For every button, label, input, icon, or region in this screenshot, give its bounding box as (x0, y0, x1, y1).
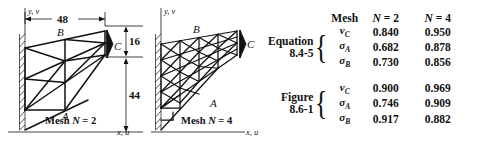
group-brace-figure: { (313, 81, 329, 127)
row-value-n4: 0.882 (412, 111, 464, 126)
row-symbol: vC (330, 24, 360, 39)
row-value-n2: 0.840 (360, 24, 412, 39)
mesh-caption-n2: Mesh N = 2 (45, 115, 96, 126)
group-label-equation: Equation 8.4-5 (268, 24, 313, 70)
row-symbol-sub: A (345, 102, 350, 111)
node-label-b-n2: B (57, 26, 64, 38)
table-header-row: Mesh N = 2 N = 4 (268, 12, 464, 24)
row-symbol: σB (330, 54, 360, 69)
mesh-caption-value-n2: 2 (91, 115, 96, 126)
header-spacer (268, 12, 313, 24)
mesh-caption-eq-n2: = (80, 115, 91, 126)
header-n2-var: N (373, 12, 381, 24)
brace-glyph: { (315, 30, 327, 64)
header-n2-eq: = (381, 12, 393, 24)
row-value-n2: 0.730 (360, 54, 412, 69)
x-axis-label-n4: x, u (245, 127, 258, 137)
wall-support-n2 (20, 34, 26, 130)
row-symbol: σB (330, 111, 360, 126)
node-label-b-n4: B (193, 23, 200, 35)
y-axis-label-n4: y, v (163, 6, 176, 16)
row-value-n4: 0.856 (412, 54, 464, 69)
group-label-figure-line2: 8.6-1 (268, 103, 313, 115)
row-symbol: σA (330, 39, 360, 54)
header-n4-eq: = (433, 12, 445, 24)
row-value-n4: 0.969 (412, 81, 464, 96)
row-value-n2: 0.746 (360, 96, 412, 111)
row-symbol: vC (330, 81, 360, 96)
figure-page: y, v x, u 48 (0, 0, 497, 150)
wall-support-n4 (156, 34, 162, 130)
header-n2: N = 2 (360, 12, 412, 24)
mesh-caption-n4: Mesh N = 4 (181, 115, 233, 126)
brace-glyph: { (315, 86, 327, 120)
row-value-n4: 0.878 (412, 39, 464, 54)
mesh-diagram-n2: y, v x, u 48 (0, 0, 145, 150)
mesh-diagram-n4: y, v x, u (145, 0, 265, 150)
row-symbol-sub: B (345, 117, 350, 126)
table-row: Equation 8.4-5 { vC 0.840 0.950 (268, 24, 464, 39)
dimension-span-value-n2: 48 (57, 13, 69, 25)
header-n4: N = 4 (412, 12, 464, 24)
tip-load-arrow-n4 (240, 30, 246, 58)
row-symbol: σA (330, 96, 360, 111)
header-n2-value: 2 (393, 12, 399, 24)
row-symbol-sub: C (345, 30, 350, 39)
header-n4-var: N (425, 12, 433, 24)
row-value-n2: 0.900 (360, 81, 412, 96)
node-label-a-n4: A (209, 97, 217, 109)
table-group-spacer (268, 70, 464, 81)
row-value-n2: 0.682 (360, 39, 412, 54)
group-label-figure: Figure 8.6-1 (268, 81, 313, 127)
group-label-equation-line1: Equation (268, 35, 313, 47)
mesh-caption-eq-n4: = (216, 115, 227, 126)
mesh-caption-prefix-n2: Mesh (45, 115, 72, 126)
row-symbol-sub: A (345, 45, 350, 54)
tip-load-arrow-n2 (107, 30, 113, 58)
header-brace-spacer (313, 12, 329, 24)
row-value-n4: 0.950 (412, 24, 464, 39)
group-label-figure-line1: Figure (281, 91, 313, 103)
results-table-area: Mesh N = 2 N = 4 Equation 8.4-5 { vC 0.8… (268, 0, 497, 150)
node-label-c-n2: C (114, 40, 122, 52)
node-label-c-n4: C (247, 38, 255, 50)
row-value-n2: 0.917 (360, 111, 412, 126)
group-label-equation-line2: 8.4-5 (268, 47, 313, 59)
dimension-tip-depth-value-n2: 16 (129, 35, 141, 47)
table-row: Figure 8.6-1 { vC 0.900 0.969 (268, 81, 464, 96)
dimension-root-offset-value-n2: 44 (129, 89, 141, 101)
row-value-n4: 0.909 (412, 96, 464, 111)
results-table: Mesh N = 2 N = 4 Equation 8.4-5 { vC 0.8… (268, 12, 464, 126)
row-symbol-sub: B (345, 61, 350, 70)
mesh-caption-value-n4: 4 (227, 115, 233, 126)
header-mesh: Mesh (330, 12, 360, 24)
row-symbol-sub: C (345, 87, 350, 96)
group-brace-equation: { (313, 24, 329, 70)
mesh-caption-prefix-n4: Mesh (181, 115, 208, 126)
y-axis-label-n2: y, v (27, 6, 40, 16)
header-n4-value: 4 (445, 12, 451, 24)
